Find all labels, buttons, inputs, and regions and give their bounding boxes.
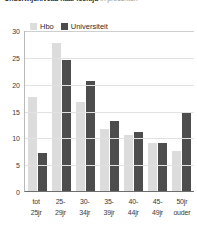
x-label-line: tot <box>24 196 48 207</box>
x-label-1: 25-29jr <box>48 196 72 230</box>
y-tick-5: 5 <box>0 162 20 169</box>
bar-universiteit-2 <box>86 81 95 191</box>
chart-title-unit: in procenten <box>100 0 137 2</box>
y-tick-30: 30 <box>0 28 20 35</box>
gridline-10 <box>25 138 194 139</box>
bar-universiteit-0 <box>38 153 47 191</box>
x-label-line: ouder <box>170 207 194 218</box>
x-label-line: 35- <box>97 196 121 207</box>
x-label-0: tot25jr <box>24 196 48 230</box>
x-label-line: 25- <box>48 196 72 207</box>
bar-hbo-1 <box>52 43 61 191</box>
gridline-20 <box>25 85 194 86</box>
x-label-line: 30- <box>73 196 97 207</box>
y-tick-0: 0 <box>0 189 20 196</box>
y-tick-15: 15 <box>0 108 20 115</box>
bar-hbo-4 <box>124 135 133 191</box>
x-label-line: 45- <box>145 196 169 207</box>
y-tick-20: 20 <box>0 81 20 88</box>
gridline-25 <box>25 58 194 59</box>
x-label-4: 40-44jr <box>121 196 145 230</box>
x-label-line: 39jr <box>97 207 121 218</box>
x-label-line: 50jr <box>170 196 194 207</box>
bar-universiteit-5 <box>158 143 167 191</box>
y-tick-25: 25 <box>0 54 20 61</box>
bar-universiteit-3 <box>110 121 119 191</box>
x-label-line: 40- <box>121 196 145 207</box>
x-label-6: 50jrouder <box>170 196 194 230</box>
chart-title-text: Onderwijsniveau naar leeftijd <box>4 0 98 2</box>
x-axis-labels: tot25jr25-29jr30-34jr35-39jr40-44jr45-49… <box>24 196 194 230</box>
x-label-line: 34jr <box>73 207 97 218</box>
bar-hbo-2 <box>76 102 85 191</box>
legend-item-hbo: Hbo <box>30 22 54 31</box>
gridline-15 <box>25 112 194 113</box>
legend-swatch-universiteit <box>61 23 68 30</box>
x-label-line: 29jr <box>48 207 72 218</box>
x-label-5: 45-49jr <box>145 196 169 230</box>
x-label-line: 49jr <box>145 207 169 218</box>
legend-item-universiteit: Universiteit <box>61 22 108 31</box>
gridline-30 <box>25 31 194 32</box>
x-label-3: 35-39jr <box>97 196 121 230</box>
x-label-line: 25jr <box>24 207 48 218</box>
bar-hbo-5 <box>148 143 157 191</box>
plot-area <box>24 31 194 192</box>
bar-hbo-6 <box>172 151 181 191</box>
bar-universiteit-6 <box>182 113 191 191</box>
gridline-5 <box>25 165 194 166</box>
y-tick-10: 10 <box>0 135 20 142</box>
legend-label-hbo: Hbo <box>40 22 54 31</box>
bar-chart: Onderwijsniveau naar leeftijd in procent… <box>0 0 197 232</box>
legend-swatch-hbo <box>30 23 37 30</box>
bar-universiteit-4 <box>134 132 143 191</box>
x-label-line: 44jr <box>121 207 145 218</box>
x-label-2: 30-34jr <box>73 196 97 230</box>
bar-universiteit-1 <box>62 60 71 191</box>
legend-label-universiteit: Universiteit <box>71 22 108 31</box>
y-axis: 051015202530 <box>0 31 22 192</box>
chart-title: Onderwijsniveau naar leeftijd in procent… <box>4 0 197 6</box>
